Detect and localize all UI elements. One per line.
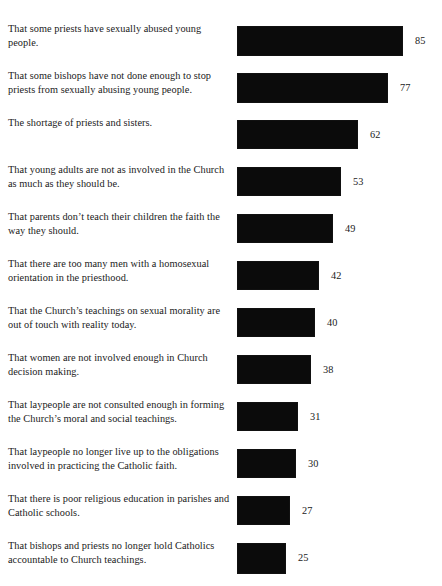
bar <box>237 73 388 103</box>
chart-row: That some bishops have not done enough t… <box>0 67 442 114</box>
chart-row: That some priests have sexually abused y… <box>0 20 442 67</box>
bar <box>237 543 286 574</box>
bar-value-label: 53 <box>353 175 363 188</box>
bar-value-label: 85 <box>415 34 425 47</box>
bar-value-label: 31 <box>310 410 320 423</box>
chart-row: That women are not involved enough in Ch… <box>0 349 442 396</box>
chart-row: That young adults are not as involved in… <box>0 161 442 208</box>
chart-row: That there is poor religious education i… <box>0 490 442 537</box>
row-label: That some priests have sexually abused y… <box>8 22 230 49</box>
row-label: That there are too many men with a homos… <box>8 257 230 284</box>
bar <box>237 355 311 384</box>
bar-value-label: 27 <box>302 504 312 517</box>
bar <box>237 26 403 56</box>
bar-area: 38 <box>237 355 442 388</box>
row-label: That bishops and priests no longer hold … <box>8 539 230 566</box>
row-label: The shortage of priests and sisters. <box>8 116 230 130</box>
bar-area: 31 <box>237 402 442 435</box>
bar-value-label: 25 <box>298 551 308 564</box>
bar-value-label: 42 <box>331 269 341 282</box>
row-label: That some bishops have not done enough t… <box>8 69 230 96</box>
bar <box>237 261 319 290</box>
bar <box>237 120 358 149</box>
chart-rows: That some priests have sexually abused y… <box>0 20 442 584</box>
chart-row: That bishops and priests no longer hold … <box>0 537 442 584</box>
bar-area: 85 <box>237 26 442 59</box>
bar-area: 62 <box>237 120 442 153</box>
row-label: That there is poor religious education i… <box>8 492 230 519</box>
bar-value-label: 38 <box>323 363 333 376</box>
row-label: That young adults are not as involved in… <box>8 163 230 190</box>
bar <box>237 214 333 243</box>
bar-area: 49 <box>237 214 442 247</box>
row-label: That women are not involved enough in Ch… <box>8 351 230 378</box>
row-label: That parents don’t teach their children … <box>8 210 230 237</box>
bar-area: 40 <box>237 308 442 341</box>
bar-area: 30 <box>237 449 442 482</box>
bar <box>237 402 298 431</box>
bar-value-label: 40 <box>327 316 337 329</box>
bar-value-label: 77 <box>400 81 410 94</box>
bar-area: 27 <box>237 496 442 529</box>
row-label: That laypeople are not consulted enough … <box>8 398 230 425</box>
horizontal-bar-chart: That some priests have sexually abused y… <box>0 0 442 586</box>
bar-area: 53 <box>237 167 442 200</box>
row-label: That the Church’s teachings on sexual mo… <box>8 304 230 331</box>
chart-row: That there are too many men with a homos… <box>0 255 442 302</box>
chart-row: That laypeople no longer live up to the … <box>0 443 442 490</box>
bar <box>237 449 296 478</box>
bar <box>237 496 290 525</box>
bar-area: 42 <box>237 261 442 294</box>
bar-area: 77 <box>237 73 442 106</box>
chart-row: That the Church’s teachings on sexual mo… <box>0 302 442 349</box>
bar-value-label: 30 <box>308 457 318 470</box>
chart-row: The shortage of priests and sisters. 62 <box>0 114 442 161</box>
bar-value-label: 49 <box>345 222 355 235</box>
bar-area: 25 <box>237 543 442 576</box>
chart-row: That parents don’t teach their children … <box>0 208 442 255</box>
row-label: That laypeople no longer live up to the … <box>8 445 230 472</box>
chart-row: That laypeople are not consulted enough … <box>0 396 442 443</box>
bar-value-label: 62 <box>370 128 380 141</box>
bar <box>237 308 315 337</box>
bar <box>237 167 341 196</box>
